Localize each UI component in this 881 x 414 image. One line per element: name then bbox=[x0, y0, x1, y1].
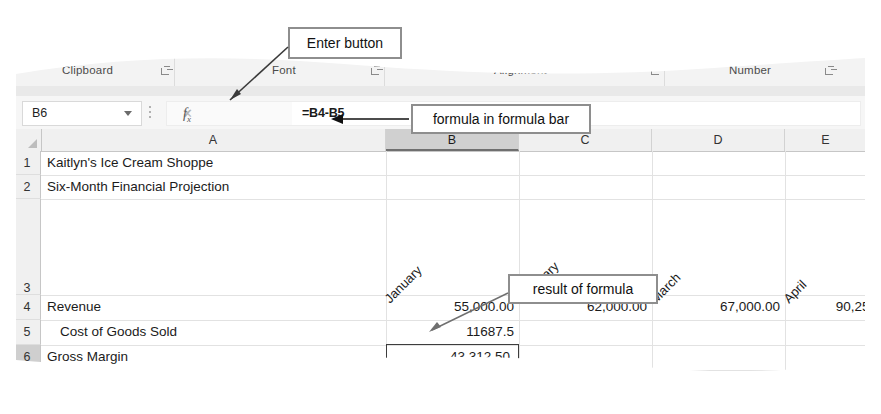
column-header-a[interactable]: A bbox=[41, 129, 386, 151]
screenshot-root: Clipboard Font Alignment Number B6 bbox=[0, 0, 881, 414]
ribbon-group-font: Font bbox=[272, 64, 296, 78]
name-box[interactable]: B6 bbox=[22, 101, 142, 126]
cell-b4[interactable]: 55,000.00 bbox=[386, 299, 514, 314]
cell-a2[interactable]: Six-Month Financial Projection bbox=[47, 179, 229, 194]
fx-icon[interactable]: fx bbox=[167, 102, 207, 125]
formula-input-value: =B4-B5 bbox=[302, 106, 344, 120]
column-header-e[interactable]: E bbox=[785, 129, 867, 151]
column-header-d[interactable]: D bbox=[652, 129, 785, 151]
row-header-6[interactable]: 6 bbox=[14, 345, 41, 370]
cell-b5[interactable]: 11687.5 bbox=[386, 324, 514, 339]
active-cell-selection-box bbox=[386, 344, 519, 371]
cell-d4[interactable]: 67,000.00 bbox=[652, 299, 780, 314]
ribbon-group-labels-bar: Clipboard Font Alignment Number bbox=[14, 58, 867, 86]
name-box-value: B6 bbox=[32, 106, 47, 120]
more-options-icon[interactable] bbox=[149, 106, 152, 119]
cell-a5[interactable]: Cost of Goods Sold bbox=[60, 324, 177, 339]
row-header-1[interactable]: 1 bbox=[14, 151, 41, 175]
row-header-2[interactable]: 2 bbox=[14, 175, 41, 199]
row-header-7[interactable]: 7 bbox=[14, 370, 41, 378]
dialog-box-launcher-icon-alignment[interactable] bbox=[650, 66, 661, 77]
ribbon-group-alignment: Alignment bbox=[494, 64, 547, 78]
formula-bar-buttons: ✕ ✓ fx bbox=[166, 101, 293, 126]
cell-a4[interactable]: Revenue bbox=[47, 299, 101, 314]
row-header-4[interactable]: 4 bbox=[14, 295, 41, 320]
fill-handle[interactable] bbox=[516, 368, 520, 372]
callout-result-of-formula: result of formula bbox=[508, 274, 658, 304]
row-header-5[interactable]: 5 bbox=[14, 320, 41, 345]
callout-formula-in-formula-bar: formula in formula bar bbox=[411, 104, 591, 134]
ribbon-group-number: Number bbox=[729, 64, 771, 78]
ribbon-group-clipboard: Clipboard bbox=[62, 64, 113, 78]
cell-e4[interactable]: 90,250 bbox=[785, 299, 867, 314]
select-all-corner-icon[interactable] bbox=[14, 129, 42, 151]
ribbon-divider bbox=[14, 86, 867, 96]
dialog-box-launcher-icon-clipboard[interactable] bbox=[160, 66, 171, 77]
cell-a6[interactable]: Gross Margin bbox=[47, 349, 128, 364]
dialog-box-launcher-icon-number[interactable] bbox=[824, 66, 835, 77]
chevron-down-icon[interactable] bbox=[124, 111, 132, 116]
worksheet-grid[interactable]: A B C D E 1 2 3 4 5 6 7 bbox=[14, 129, 867, 378]
callout-enter-button: Enter button bbox=[288, 27, 402, 59]
row-header-3[interactable]: 3 bbox=[14, 199, 41, 295]
cell-a1[interactable]: Kaitlyn's Ice Cream Shoppe bbox=[47, 155, 213, 170]
dialog-box-launcher-icon-font[interactable] bbox=[370, 66, 381, 77]
